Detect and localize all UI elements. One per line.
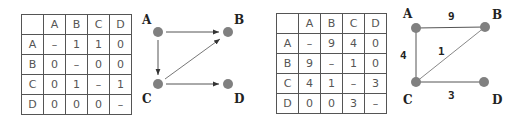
node-a — [411, 23, 421, 33]
node-c — [411, 77, 421, 87]
node-label-a: A — [402, 7, 413, 21]
edge-c-b — [165, 39, 220, 79]
edge-weight-c-b: 1 — [438, 45, 445, 58]
edge-weight-a-b: 9 — [448, 10, 455, 23]
weighted-graph: A B C D 9 4 1 3 — [259, 0, 518, 120]
node-a — [153, 27, 163, 37]
edge-c-b — [416, 27, 485, 82]
node-b — [223, 27, 233, 37]
node-label-a: A — [141, 13, 152, 27]
node-b — [480, 22, 490, 32]
node-label-c: C — [403, 93, 413, 107]
node-d — [223, 79, 233, 89]
directed-graph: A B C D — [0, 0, 259, 120]
node-label-d: D — [234, 92, 244, 106]
edge-a-b — [416, 27, 485, 28]
node-label-b: B — [492, 8, 502, 22]
edge-weight-a-c: 4 — [400, 49, 407, 62]
node-label-c: C — [142, 92, 152, 106]
node-label-d: D — [492, 93, 502, 107]
node-label-b: B — [234, 13, 244, 27]
node-d — [479, 77, 489, 87]
node-c — [153, 79, 163, 89]
edge-weight-c-d: 3 — [448, 89, 455, 102]
